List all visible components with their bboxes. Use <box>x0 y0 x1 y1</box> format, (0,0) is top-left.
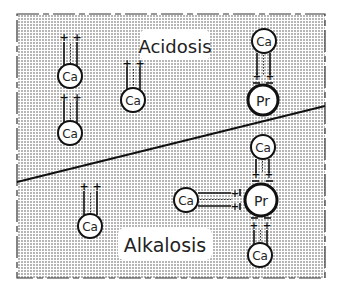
calcium-label: Ca <box>255 141 271 155</box>
calcium-label: Ca <box>125 94 141 108</box>
svg-text:+: + <box>135 57 144 70</box>
svg-text:+: + <box>59 31 68 44</box>
svg-text:+: + <box>253 71 261 82</box>
svg-text:+: + <box>231 201 239 212</box>
svg-text:+: + <box>263 220 271 231</box>
alkalosis-label-group: Alkalosis <box>118 228 212 260</box>
svg-text:+: + <box>266 71 274 82</box>
alkalosis-label: Alkalosis <box>124 234 207 256</box>
calcium-label: Ca <box>178 194 194 208</box>
svg-text:+: + <box>231 188 239 199</box>
acidosis-alkalosis-diagram: Acidosis Alkalosis + + Ca + + Ca + + Ca <box>0 0 343 298</box>
calcium-label: Ca <box>62 70 78 84</box>
svg-text:+: + <box>79 180 88 193</box>
acidosis-label-group: Acidosis <box>138 30 211 60</box>
acidosis-label: Acidosis <box>138 36 211 57</box>
calcium-label: Ca <box>82 220 98 234</box>
calcium-label: Ca <box>256 35 272 49</box>
calcium-label: Ca <box>252 249 268 263</box>
svg-text:+: + <box>252 169 260 180</box>
protein-label: Pr <box>254 193 268 209</box>
calcium-label: Ca <box>62 127 78 141</box>
svg-text:+: + <box>72 91 81 104</box>
protein-label: Pr <box>256 93 270 109</box>
svg-text:+: + <box>92 180 101 193</box>
svg-text:+: + <box>250 220 258 231</box>
svg-text:+: + <box>72 31 81 44</box>
svg-text:+: + <box>59 91 68 104</box>
svg-text:+: + <box>122 57 131 70</box>
svg-text:+: + <box>265 169 273 180</box>
